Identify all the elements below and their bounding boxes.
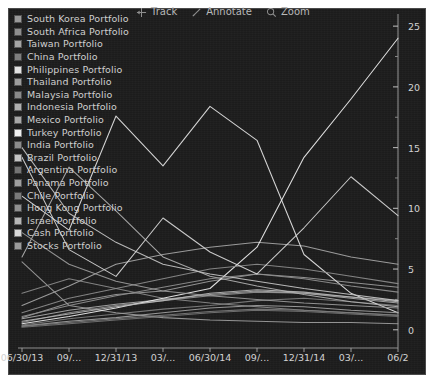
y-tick-label: 0 (408, 324, 414, 335)
x-tick-label: 03/... (151, 352, 175, 363)
legend-item[interactable]: Mexico Portfolio (9, 114, 131, 127)
magnifier-icon (266, 7, 277, 18)
legend-item-label: Malaysia Portfolio (27, 90, 112, 100)
legend-item-label: Argentina Portfolio (27, 165, 117, 175)
legend-item-label: South Africa Portfolio (27, 27, 129, 37)
legend-swatch (14, 166, 22, 174)
y-tick-label: 15 (408, 142, 420, 153)
legend-swatch (14, 179, 22, 187)
legend-swatch (14, 154, 22, 162)
legend-item-label: Hong Kong Portfolio (27, 203, 123, 213)
y-axis-labels: 0510152025 (402, 14, 430, 348)
legend-item[interactable]: Argentina Portfolio (9, 164, 131, 177)
legend-swatch (14, 242, 22, 250)
x-tick-label: 06/30/14 (189, 352, 232, 363)
legend-item[interactable]: Panama Portfolio (9, 177, 131, 190)
legend-swatch (14, 53, 22, 61)
legend-item[interactable]: Thailand Portfolio (9, 76, 131, 89)
legend-item[interactable]: Brazil Portfolio (9, 152, 131, 165)
y-tick-label: 10 (408, 203, 420, 214)
legend-item-label: Mexico Portfolio (27, 115, 104, 125)
legend-item[interactable]: Taiwan Portfolio (9, 38, 131, 51)
chart-screenshot: 0510152025 06/30/1309/...12/31/1303/...0… (0, 0, 434, 382)
x-tick-label: 06/30/13 (1, 352, 44, 363)
crosshair-arrow-icon (136, 7, 147, 18)
toolbar-item-annotate[interactable]: Annotate (191, 7, 252, 18)
legend-item-label: Stocks Portfolio (27, 241, 102, 251)
legend-item-label: Israel Portfolio (27, 216, 97, 226)
x-axis-labels: 06/30/1309/...12/31/1303/...06/30/1409/.… (18, 352, 408, 368)
legend-swatch (14, 66, 22, 74)
legend-item[interactable]: Israel Portfolio (9, 215, 131, 228)
y-tick-label: 25 (408, 21, 420, 32)
legend-item[interactable]: South Korea Portfolio (9, 13, 131, 26)
chart-toolbar[interactable]: TrackAnnotateZoom (130, 2, 316, 22)
legend-item[interactable]: India Portfolio (9, 139, 131, 152)
y-tick-label: 5 (408, 264, 414, 275)
legend-item[interactable]: South Africa Portfolio (9, 26, 131, 39)
x-tick-label: 12/31/13 (95, 352, 138, 363)
legend-item[interactable]: Stocks Portfolio (9, 240, 131, 253)
legend-item-label: Thailand Portfolio (27, 77, 112, 87)
legend-swatch (14, 40, 22, 48)
legend-item-label: Philippines Portfolio (27, 65, 122, 75)
toolbar-item-zoom[interactable]: Zoom (266, 7, 310, 18)
legend-item[interactable]: Turkey Portfolio (9, 126, 131, 139)
x-tick-label: 12/31/14 (283, 352, 326, 363)
toolbar-item-label: Track (151, 7, 177, 17)
legend-swatch (14, 78, 22, 86)
toolbar-item-track[interactable]: Track (136, 7, 177, 18)
legend-item[interactable]: Cash Portfolio (9, 227, 131, 240)
legend-item-label: China Portfolio (27, 52, 98, 62)
legend-item-label: Indonesia Portfolio (27, 102, 117, 112)
pencil-icon (191, 7, 202, 18)
y-tick-label: 20 (408, 81, 420, 92)
legend-swatch (14, 28, 22, 36)
x-tick-label: 03/... (339, 352, 363, 363)
legend-item[interactable]: China Portfolio (9, 51, 131, 64)
legend-item-label: Chile Portfolio (27, 191, 94, 201)
legend-swatch (14, 229, 22, 237)
legend-item[interactable]: Chile Portfolio (9, 189, 131, 202)
legend-swatch (14, 91, 22, 99)
legend-swatch (14, 103, 22, 111)
legend-item-label: South Korea Portfolio (27, 14, 129, 24)
legend-swatch (14, 192, 22, 200)
legend-swatch (14, 204, 22, 212)
legend-item-label: Taiwan Portfolio (27, 39, 103, 49)
legend-swatch (14, 15, 22, 23)
legend-item[interactable]: Indonesia Portfolio (9, 101, 131, 114)
legend[interactable]: South Korea PortfolioSouth Africa Portfo… (9, 10, 131, 255)
legend-swatch (14, 217, 22, 225)
legend-swatch (14, 116, 22, 124)
legend-item-label: Turkey Portfolio (27, 128, 102, 138)
toolbar-item-label: Zoom (281, 7, 310, 17)
x-tick-label: 06/2 (387, 352, 408, 363)
legend-item-label: Cash Portfolio (27, 228, 94, 238)
x-tick-label: 09/... (57, 352, 81, 363)
legend-item-label: Panama Portfolio (27, 178, 109, 188)
legend-swatch (14, 141, 22, 149)
legend-item[interactable]: Philippines Portfolio (9, 63, 131, 76)
toolbar-item-label: Annotate (206, 7, 252, 17)
legend-item[interactable]: Hong Kong Portfolio (9, 202, 131, 215)
legend-item-label: India Portfolio (27, 140, 94, 150)
legend-swatch (14, 129, 22, 137)
x-tick-label: 09/... (245, 352, 269, 363)
legend-item[interactable]: Malaysia Portfolio (9, 89, 131, 102)
legend-item-label: Brazil Portfolio (27, 153, 97, 163)
